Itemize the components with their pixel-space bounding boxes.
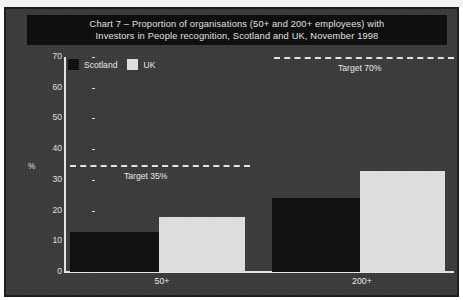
- y-tick-label-60: 60: [40, 83, 62, 92]
- legend-item-scotland: Scotland: [68, 59, 117, 70]
- y-tick-label-10: 10: [40, 236, 62, 245]
- chart-frame: Chart 7 – Proportion of organisations (5…: [4, 7, 459, 297]
- bar-scotland-200plus: [272, 198, 360, 272]
- x-axis-label-200plus: 200+: [322, 276, 402, 286]
- y-tick-mark-20: [92, 211, 95, 212]
- chart-title-line-1: Chart 7 – Proportion of organisations (5…: [90, 18, 385, 31]
- chart-title-block: Chart 7 – Proportion of organisations (5…: [27, 15, 447, 45]
- legend-swatch-scotland-icon: [68, 59, 79, 70]
- y-tick-mark-70: [92, 57, 95, 58]
- y-tick-mark-60: [92, 88, 95, 89]
- target-line-35: [70, 165, 250, 167]
- target-label-35: Target 35%: [124, 171, 167, 181]
- chart-legend: Scotland UK: [68, 59, 155, 70]
- y-tick-label-50: 50: [40, 113, 62, 122]
- y-tick-label-70: 70: [40, 52, 62, 61]
- chart-screenshot: Chart 7 – Proportion of organisations (5…: [0, 0, 463, 300]
- y-axis-ticks: 010203040506070: [36, 9, 62, 299]
- target-line-70: [274, 57, 454, 59]
- x-axis-label-50plus: 50+: [122, 276, 202, 286]
- y-axis-line: [64, 57, 66, 273]
- bar-uk-200plus: [360, 171, 445, 272]
- y-tick-mark-0: [92, 272, 95, 273]
- bar-scotland-50plus: [70, 232, 159, 272]
- y-tick-label-0: 0: [40, 267, 62, 276]
- y-tick-mark-50: [92, 118, 95, 119]
- target-label-70: Target 70%: [338, 63, 381, 73]
- chart-title-line-2: Investors in People recognition, Scotlan…: [96, 30, 379, 43]
- scan-edge-strip: [0, 0, 463, 7]
- y-tick-mark-40: [92, 149, 95, 150]
- legend-swatch-uk-icon: [127, 59, 138, 70]
- y-tick-mark-30: [92, 180, 95, 181]
- y-tick-label-30: 30: [40, 175, 62, 184]
- y-axis-unit-label: %: [28, 162, 35, 171]
- legend-label-scotland: Scotland: [84, 60, 117, 70]
- y-tick-label-40: 40: [40, 144, 62, 153]
- bar-uk-50plus: [159, 217, 245, 272]
- y-tick-label-20: 20: [40, 206, 62, 215]
- legend-item-uk: UK: [127, 59, 155, 70]
- legend-label-uk: UK: [143, 60, 155, 70]
- plot-area: % 010203040506070 50+ 200+ Target 35% Ta…: [6, 9, 461, 299]
